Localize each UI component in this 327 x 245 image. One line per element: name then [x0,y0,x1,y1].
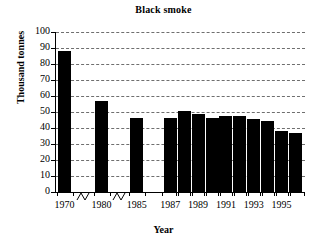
gridline [56,64,305,65]
x-axis-tick [290,192,291,196]
x-axis-tick [276,192,277,196]
y-axis-tick [51,112,55,113]
gridline [56,80,305,81]
y-axis-tick [51,192,55,193]
x-axis-tick [110,192,111,196]
x-axis-tick [234,192,235,196]
y-axis-tick [51,160,55,161]
bar [233,116,246,192]
bar [164,118,177,192]
bar [275,131,288,192]
x-axis-tick [145,192,146,196]
bar [95,101,108,192]
bar [192,114,205,192]
bar [261,121,274,192]
chart-title: Black smoke [0,4,327,15]
y-axis-tick-label: 100 [24,25,50,37]
bar [58,51,71,192]
x-axis-tick [162,192,163,196]
y-axis-tick [51,32,55,33]
y-axis-tick [51,144,55,145]
y-axis-tick-label: 10 [24,169,50,181]
x-axis-tick [176,192,177,196]
axis-break-zigzag-icon [76,192,90,201]
plot-area: 0102030405060708090100 19701980198519871… [55,32,305,192]
y-axis-tick-label: 60 [24,89,50,101]
x-axis-tick [220,192,221,196]
x-axis-tick [129,192,130,196]
x-axis-label: Year [0,224,327,235]
x-axis-line [55,192,305,193]
x-axis-tick [232,192,233,196]
bar [289,133,302,192]
y-axis-tick-label: 50 [24,105,50,117]
x-axis-tick [190,192,191,196]
x-axis-tick-label: 1995 [265,199,299,211]
bar [206,118,219,192]
chart-figure: Black smoke Thousand tonnes 010203040506… [0,0,327,245]
bar [130,118,143,192]
x-axis-tick [274,192,275,196]
x-axis-tick [248,192,249,196]
x-axis-tick [218,192,219,196]
x-axis-tick [178,192,179,196]
x-axis-tick [57,192,58,196]
y-axis-tick-label: 0 [24,185,50,197]
gridline [56,48,305,49]
y-axis-tick-label: 40 [24,121,50,133]
x-axis-tick [288,192,289,196]
y-axis-tick-label: 80 [24,57,50,69]
y-axis-tick [51,80,55,81]
bar [247,119,260,192]
y-axis-tick [51,64,55,65]
x-axis-tick [204,192,205,196]
x-axis-tick [246,192,247,196]
x-axis-tick [94,192,95,196]
bar [219,116,232,192]
y-axis-tick [51,128,55,129]
x-axis-tick [262,192,263,196]
y-axis-tick-label: 20 [24,153,50,165]
axis-break-zigzag-icon [112,192,126,201]
gridline [56,96,305,97]
y-axis-tick [51,48,55,49]
y-axis-tick-label: 30 [24,137,50,149]
bar [178,111,191,192]
x-axis-tick [304,192,305,196]
x-axis-tick [73,192,74,196]
x-axis-tick [206,192,207,196]
x-axis-tick [192,192,193,196]
y-axis-tick-label: 90 [24,41,50,53]
x-axis-tick [260,192,261,196]
y-axis-tick [51,96,55,97]
y-axis-tick [51,176,55,177]
y-axis-tick-label: 70 [24,73,50,85]
gridline [56,32,305,33]
